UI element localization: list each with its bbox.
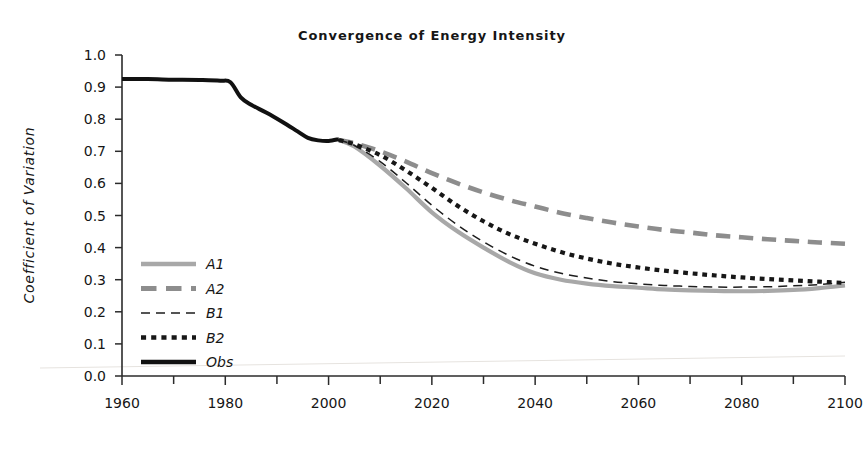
x-tick-label: 2100	[827, 395, 863, 411]
x-tick-label: 2020	[414, 395, 450, 411]
y-axis-label: Coefficient of Variation	[21, 127, 37, 304]
svg-text:Coefficient of Variation: Coefficient of Variation	[21, 127, 37, 304]
y-tick-label: 0.3	[84, 272, 106, 288]
legend-label-b2: B2	[206, 330, 225, 346]
energy-intensity-line-chart: Convergence of Energy Intensity Coeffici…	[0, 0, 865, 450]
y-tick-label: 0.8	[84, 111, 106, 127]
y-tick-label: 0.2	[84, 304, 106, 320]
y-tick-label: 0.6	[84, 175, 106, 191]
y-tick-label: 1.0	[84, 47, 106, 63]
legend-label-b1: B1	[206, 305, 225, 321]
x-tick-label: 2080	[724, 395, 760, 411]
chart-title: Convergence of Energy Intensity	[298, 28, 566, 43]
chart-figure: Convergence of Energy Intensity Coeffici…	[0, 0, 865, 450]
x-tick-label: 1960	[104, 395, 140, 411]
y-tick-label: 0.9	[84, 79, 106, 95]
x-tick-label: 2060	[621, 395, 657, 411]
x-tick-label: 1980	[207, 395, 243, 411]
x-tick-label: 2040	[517, 395, 553, 411]
y-tick-label: 0.1	[84, 336, 106, 352]
x-tick-label: 2000	[311, 395, 347, 411]
legend-label-a1: A1	[205, 256, 224, 272]
y-tick-label: 0.4	[84, 240, 106, 256]
y-tick-label: 0.0	[84, 368, 106, 384]
y-tick-label: 0.7	[84, 143, 106, 159]
legend-label-a2: A2	[205, 281, 225, 297]
y-tick-label: 0.5	[84, 208, 106, 224]
legend-label-obs: Obs	[206, 354, 233, 370]
